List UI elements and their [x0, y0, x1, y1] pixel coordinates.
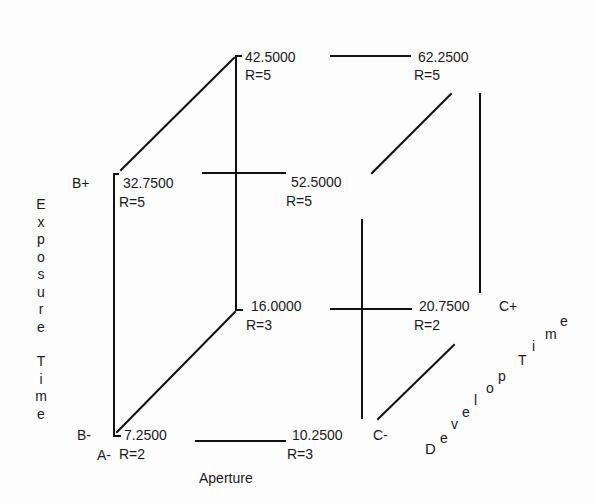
- edge-top-left-diag: [121, 58, 234, 170]
- axis-letter: o: [34, 249, 48, 267]
- level-a-low: A-: [97, 447, 111, 463]
- axis-letter: m: [34, 388, 48, 406]
- axis-letter: m: [545, 326, 557, 342]
- axis-letter: i: [532, 338, 535, 354]
- axis-letter: e: [34, 319, 48, 337]
- axis-letter: e: [34, 406, 48, 424]
- level-b-low: B-: [77, 427, 91, 443]
- axis-letter: o: [486, 380, 494, 396]
- vertex-value: 62.2500: [418, 49, 469, 65]
- vertex-value: 52.5000: [291, 174, 342, 190]
- vertex-r: R=2: [119, 446, 145, 462]
- axis-letter: T: [518, 352, 527, 368]
- axis-letter: E: [34, 196, 48, 214]
- vertex-value: 16.0000: [251, 298, 302, 314]
- vertex-value: 20.7500: [419, 298, 470, 314]
- vertex-value: 7.2500: [124, 427, 167, 443]
- axis-letter: s: [34, 266, 48, 284]
- edge-back-left: [236, 56, 242, 310]
- axis-letter: T: [34, 353, 48, 371]
- level-c-low: C-: [373, 427, 388, 443]
- vertex-r: R=5: [119, 194, 145, 210]
- y-axis-label: E x p o s u r e T i m e: [34, 196, 48, 423]
- vertex-value: 42.5000: [245, 49, 296, 65]
- vertex-r: R=5: [286, 193, 312, 209]
- axis-letter: l: [474, 392, 477, 408]
- axis-gap: [34, 336, 48, 353]
- vertex-r: R=3: [246, 317, 272, 333]
- axis-letter: p: [498, 368, 506, 384]
- edge-top-right-diag: [372, 94, 451, 173]
- axis-letter: e: [560, 313, 568, 329]
- edge-bottom-left-diag: [117, 312, 235, 432]
- edge-front-left: [114, 174, 120, 436]
- vertex-r: R=3: [287, 446, 313, 462]
- edge-bottom-right-diag: [378, 345, 454, 419]
- axis-letter: r: [34, 301, 48, 319]
- vertex-value: 10.2500: [292, 427, 343, 443]
- vertex-value: 32.7500: [123, 175, 174, 191]
- vertex-r: R=2: [414, 317, 440, 333]
- axis-letter: e: [440, 430, 448, 446]
- axis-letter: u: [34, 284, 48, 302]
- axis-letter: x: [34, 214, 48, 232]
- axis-letter: i: [34, 371, 48, 389]
- axis-letter: e: [462, 404, 470, 420]
- level-c-high: C+: [499, 298, 517, 314]
- vertex-r: R=5: [245, 67, 271, 83]
- axis-letter: v: [451, 416, 458, 432]
- axis-letter: p: [34, 231, 48, 249]
- x-axis-label: Aperture: [199, 470, 253, 486]
- level-b-high: B+: [72, 175, 90, 191]
- vertex-r: R=5: [414, 67, 440, 83]
- cube-plot: 42.5000 R=5 62.2500 R=5 32.7500 R=5 52.5…: [0, 0, 596, 504]
- axis-letter: D: [425, 440, 436, 457]
